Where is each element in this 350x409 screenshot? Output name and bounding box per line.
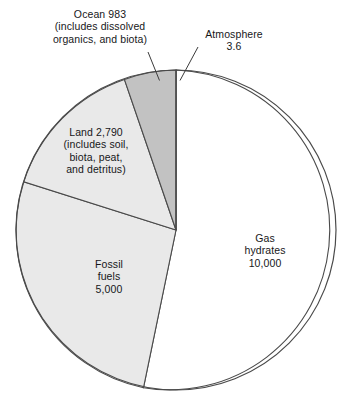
pie-label-gas-hydrates: Gas hydrates 10,000 bbox=[222, 232, 308, 269]
pie-label-atmosphere: Atmosphere 3.6 bbox=[186, 28, 282, 53]
pie-label-ocean: Ocean 983 (includes dissolved organics, … bbox=[20, 8, 180, 45]
pie-label-fossil-fuels: Fossil fuels 5,000 bbox=[72, 258, 146, 295]
pie-chart-svg bbox=[0, 0, 350, 409]
pie-label-land: Land 2,790 (includes soil, biota, peat, … bbox=[44, 126, 148, 176]
pie-chart-figure: Ocean 983 (includes dissolved organics, … bbox=[0, 0, 350, 409]
